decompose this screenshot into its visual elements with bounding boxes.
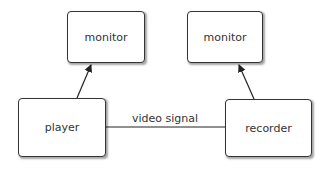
monitor-left-node: monitor (67, 11, 145, 63)
recorder-node: recorder (225, 99, 312, 157)
monitor-right-node: monitor (187, 11, 263, 63)
edge-recorder-to-monitor (239, 65, 254, 99)
edge-player-to-monitor (77, 65, 91, 98)
video-signal-label: video signal (132, 112, 198, 125)
player-node: player (18, 98, 106, 157)
monitor-left-label: monitor (84, 31, 127, 44)
monitor-right-label: monitor (203, 31, 246, 44)
player-label: player (45, 121, 80, 134)
recorder-label: recorder (245, 122, 291, 135)
